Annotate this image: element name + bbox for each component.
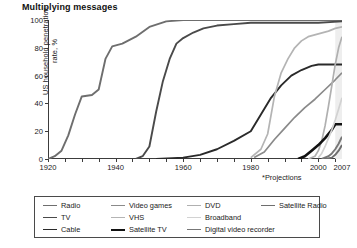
y-tick-label: 20 (35, 127, 43, 136)
legend-item[interactable]: Satellite Radio (261, 201, 327, 210)
chart-legend: RadioTVCableVideo gamesVHSSatellite TVDV… (34, 196, 320, 238)
legend-swatch-icon (111, 229, 125, 231)
legend-item[interactable]: Cable (43, 225, 80, 234)
y-tick-label: 100 (30, 16, 43, 25)
legend-item-label: VHS (129, 213, 144, 222)
x-tick-mark (268, 159, 269, 162)
legend-item[interactable]: VHS (111, 213, 144, 222)
legend-item-label: Broadband (205, 213, 241, 222)
legend-item[interactable]: DVD (187, 201, 221, 210)
legend-swatch-icon (43, 229, 57, 230)
x-tick-label: 1920 (40, 163, 57, 172)
legend-swatch-icon (187, 205, 201, 206)
legend-item[interactable]: Radio (43, 201, 80, 210)
x-tick-mark (335, 159, 336, 162)
x-tick-mark (200, 159, 201, 162)
legend-item[interactable]: Broadband (187, 213, 241, 222)
x-tick-mark (149, 159, 150, 162)
legend-item-label: Digital video recorder (205, 225, 275, 234)
x-tick-mark (217, 159, 218, 162)
x-tick-label: 2000 (310, 163, 327, 172)
x-tick-mark (116, 159, 117, 162)
legend-item-label: Radio (61, 201, 80, 210)
chart-figure: Multiplying messages US household penetr… (0, 0, 357, 248)
x-tick-mark (234, 159, 235, 162)
y-tick-label: 40 (35, 99, 43, 108)
x-tick-mark (301, 159, 302, 162)
projections-footnote: *Projections (262, 173, 301, 182)
chart-lines: * (48, 20, 342, 159)
legend-swatch-icon (187, 229, 201, 230)
x-tick-label: 1960 (175, 163, 192, 172)
legend-item[interactable]: Video games (111, 201, 172, 210)
legend-swatch-icon (111, 217, 125, 218)
legend-swatch-icon (43, 205, 57, 206)
x-tick-mark (65, 159, 66, 162)
legend-item-label: TV (61, 213, 70, 222)
legend-item-label: DVD (205, 201, 221, 210)
x-tick-mark (48, 159, 49, 162)
x-tick-mark (318, 159, 319, 162)
legend-item-label: Video games (129, 201, 172, 210)
x-tick-label: 1940 (107, 163, 124, 172)
y-tick-label: 60 (35, 71, 43, 80)
legend-swatch-icon (111, 205, 125, 206)
x-tick-mark (132, 159, 133, 162)
x-tick-mark (82, 159, 83, 162)
page-title: Multiplying messages (22, 2, 118, 12)
legend-swatch-icon (187, 217, 201, 218)
x-tick-mark (99, 159, 100, 162)
legend-item[interactable]: Satellite TV (111, 225, 167, 234)
x-tick-label: 2007 (334, 163, 351, 172)
legend-swatch-icon (261, 205, 275, 206)
y-tick-label: 80 (35, 43, 43, 52)
series-line (254, 73, 342, 158)
legend-swatch-icon (43, 217, 57, 218)
x-tick-mark (183, 159, 184, 162)
series-line (156, 64, 342, 159)
legend-item[interactable]: Digital video recorder (187, 225, 275, 234)
series-svg: * (48, 20, 342, 159)
x-tick-mark (166, 159, 167, 162)
legend-item-label: Satellite Radio (279, 201, 327, 210)
x-tick-mark (251, 159, 252, 162)
chart-plot-area: US household penetration rate, % 0204060… (48, 20, 342, 159)
projection-asterisk-marker: * (337, 20, 341, 23)
legend-item-label: Cable (61, 225, 80, 234)
series-line (48, 20, 342, 159)
x-tick-mark (285, 159, 286, 162)
x-tick-label: 1980 (242, 163, 259, 172)
legend-item-label: Satellite TV (129, 225, 167, 234)
legend-item[interactable]: TV (43, 213, 70, 222)
